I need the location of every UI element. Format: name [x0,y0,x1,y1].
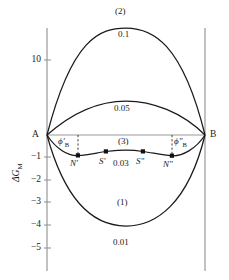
curve-003-value-label: 0.03 [113,159,129,168]
point-label-s-prime: S′ [99,157,105,166]
curve-2-number-label: (2) [115,7,126,16]
curve-1-path [47,135,205,226]
marker-s-prime [104,149,108,153]
point-label-n-prime: N′ [70,159,78,168]
y-tick-label-minus-3: −3 [15,197,41,207]
marker-n-prime [76,153,80,157]
curve-005-value-label: 0.05 [114,104,130,113]
point-label-n-double-prime: N″ [163,160,173,169]
phi-b-prime-subscript: B [65,141,69,148]
marker-n-double-prime [170,154,174,158]
curve-1-value-label: 0.01 [113,238,129,247]
curve-2-value-label: 0.1 [118,30,129,39]
thermodynamic-free-energy-figure: ΔGM 10 −1 −2 −3 −4 −5 A B (2) 0.1 0.05 (… [0,0,229,280]
endpoint-label-b: B [210,130,216,140]
y-tick-label-minus-2: −2 [15,175,41,185]
endpoint-label-a: A [32,130,39,140]
curve-2-path [47,28,205,135]
curve-3-number-label: (3) [118,137,129,146]
y-tick-label-minus-4: −4 [15,220,41,230]
y-axis-title-subscript: M [16,163,24,169]
y-tick-label-minus-1: −1 [15,152,41,162]
phi-b-prime-label: ϕ′B [58,137,69,148]
curve-1-number-label: (1) [117,198,128,207]
y-tick-label-minus-5: −5 [15,243,41,253]
y-tick-label-10: 10 [15,55,41,65]
point-label-s-double-prime: S″ [136,157,144,166]
marker-s-double-prime [141,149,145,153]
phi-b-double-prime-label: ϕ″B [174,137,187,148]
phi-b-double-prime-subscript: B [182,141,186,148]
